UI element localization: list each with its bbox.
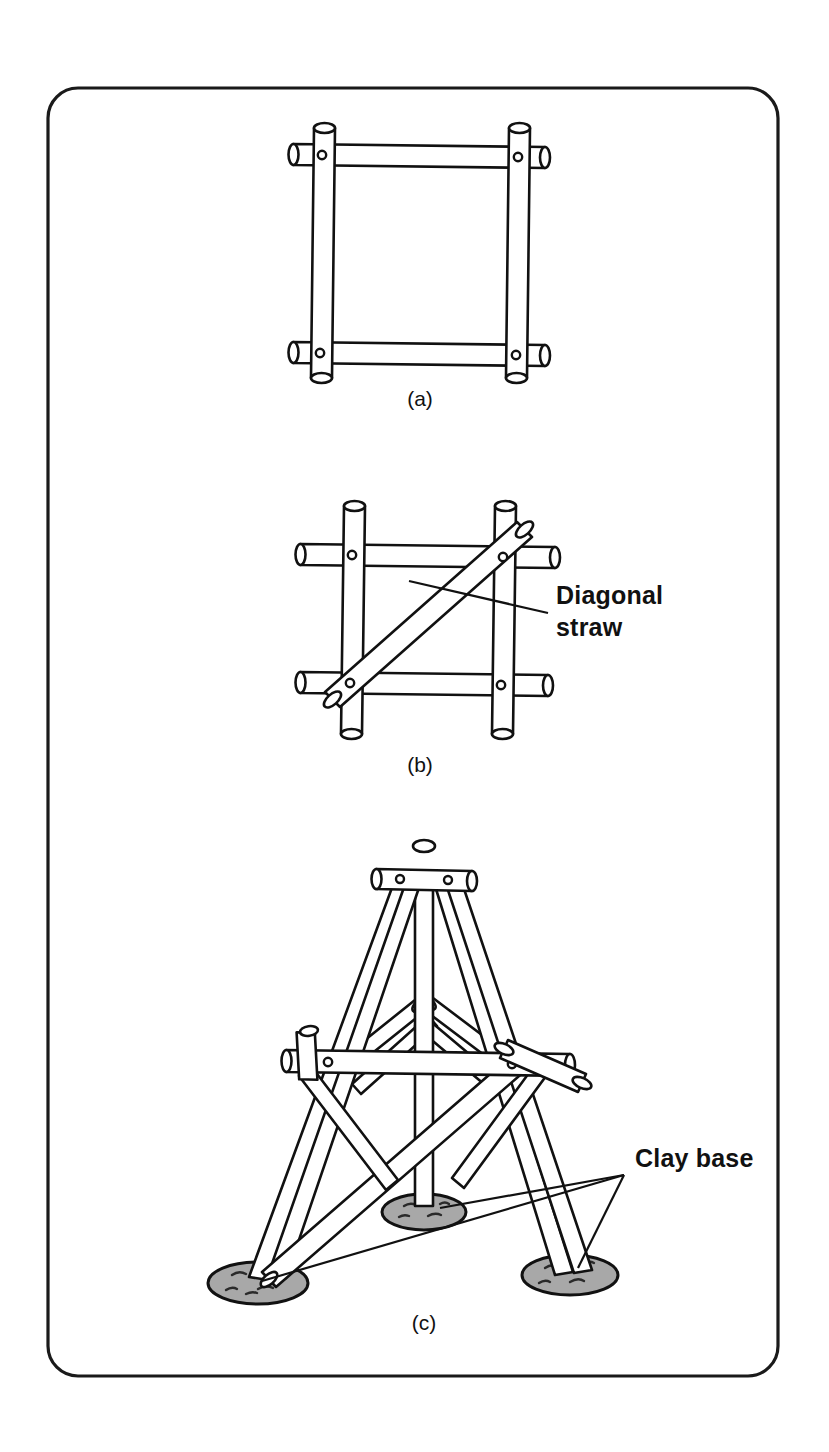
pin-joint <box>499 553 507 561</box>
tower-apex-cap <box>413 840 435 852</box>
pin-joint <box>346 679 354 687</box>
pin-joint <box>396 875 404 883</box>
annotation-diagonal-straw-line2: straw <box>556 613 623 641</box>
page-background <box>0 0 829 1452</box>
straw-top-horizontal <box>372 869 478 891</box>
annotation-diagonal-straw-line1: Diagonal <box>556 581 663 609</box>
annotation-clay-base: Clay base <box>635 1144 754 1172</box>
pin-joint <box>497 681 505 689</box>
straw-construction-figure: (a) <box>0 0 829 1452</box>
figure-root: (a) <box>0 0 829 1452</box>
pin-joint <box>324 1058 332 1066</box>
pin-joint <box>318 151 326 159</box>
panel-caption-a: (a) <box>407 387 433 410</box>
pin-joint <box>316 349 324 357</box>
pin-joint <box>514 153 522 161</box>
pin-joint <box>348 551 356 559</box>
straw-vertical-left <box>311 123 335 383</box>
panel-caption-c: (c) <box>412 1311 437 1334</box>
panel-caption-b: (b) <box>407 753 433 776</box>
pin-joint <box>512 351 520 359</box>
pin-joint <box>444 876 452 884</box>
